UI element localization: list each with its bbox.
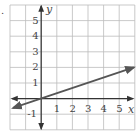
coordinate-plane (0, 0, 136, 140)
x-tick-label: 4 (101, 104, 107, 114)
y-axis-label: y (46, 4, 52, 15)
y-tick-label: 3 (32, 47, 38, 57)
x-axis-label: x (128, 104, 134, 115)
x-tick-label: 5 (116, 104, 122, 114)
y-tick-label: 2 (32, 62, 38, 72)
y-tick-label: -1 (27, 109, 37, 119)
figure-marker: . (1, 6, 4, 16)
y-tick-label: 5 (32, 16, 38, 26)
y-tick-label: 1 (32, 78, 38, 88)
y-tick-label: 4 (32, 31, 38, 41)
x-tick-label: 3 (85, 104, 91, 114)
x-tick-label: 1 (54, 104, 60, 114)
x-tick-label: 2 (69, 104, 75, 114)
